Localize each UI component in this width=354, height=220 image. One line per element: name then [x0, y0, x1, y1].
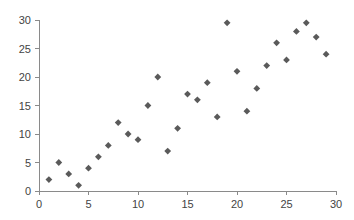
y-tick-label: 15: [19, 100, 31, 112]
data-point-marker: [234, 68, 241, 75]
data-point-marker: [46, 176, 53, 183]
data-point-marker: [55, 159, 62, 166]
y-tick-label: 20: [19, 71, 31, 83]
data-point-marker: [204, 79, 211, 86]
y-tick-label: 10: [19, 128, 31, 140]
data-point-marker: [253, 85, 260, 92]
data-point-marker: [303, 19, 310, 26]
data-markers: [46, 19, 330, 188]
data-point-marker: [75, 182, 82, 189]
data-point-marker: [293, 28, 300, 35]
data-point-marker: [115, 119, 122, 126]
data-point-marker: [273, 39, 280, 46]
data-point-marker: [323, 51, 330, 58]
data-point-marker: [95, 153, 102, 160]
data-point-marker: [85, 165, 92, 172]
data-point-marker: [154, 74, 161, 81]
x-axis: 051015202530: [36, 191, 342, 210]
data-point-marker: [194, 96, 201, 103]
x-tick-label: 25: [280, 198, 292, 210]
y-tick-label: 0: [25, 185, 31, 197]
data-point-marker: [263, 62, 270, 69]
x-tick-label: 30: [330, 198, 342, 210]
data-point-marker: [184, 91, 191, 98]
data-point-marker: [244, 108, 251, 115]
y-axis: 051015202530: [19, 14, 39, 197]
x-tick-label: 20: [231, 198, 243, 210]
data-point-marker: [283, 57, 290, 64]
data-point-marker: [105, 142, 112, 149]
data-point-marker: [224, 19, 231, 26]
data-point-marker: [65, 171, 72, 178]
x-tick-label: 5: [85, 198, 91, 210]
data-point-marker: [125, 131, 132, 138]
x-tick-label: 10: [132, 198, 144, 210]
data-point-marker: [145, 102, 152, 109]
data-point-marker: [135, 136, 142, 143]
data-point-marker: [174, 125, 181, 132]
data-point-marker: [214, 114, 221, 121]
data-point-marker: [164, 148, 171, 155]
y-tick-label: 5: [25, 157, 31, 169]
data-point-marker: [313, 34, 320, 41]
x-tick-label: 0: [36, 198, 42, 210]
x-tick-label: 15: [181, 198, 193, 210]
y-tick-label: 25: [19, 43, 31, 55]
scatter-chart: 051015202530 051015202530: [0, 0, 354, 220]
plot-area: 051015202530 051015202530: [0, 0, 354, 220]
y-tick-label: 30: [19, 14, 31, 26]
